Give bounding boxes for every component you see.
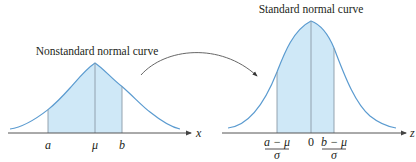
tick-b-numerator: b − μ — [321, 135, 347, 149]
normal-curve-diagram: Nonstandard normal curve x a μ b Standar… — [0, 0, 416, 162]
tick-a: a — [45, 138, 51, 152]
tick-a-standardized: a − μ σ — [264, 135, 290, 162]
right-panel: Standard normal curve z a − μ σ 0 b − μ … — [222, 3, 415, 162]
tick-b-denominator: σ — [331, 148, 338, 162]
tick-b: b — [119, 138, 125, 152]
tick-a-numerator: a − μ — [264, 135, 290, 149]
right-shaded-area — [277, 21, 334, 133]
tick-zero: 0 — [308, 135, 314, 149]
right-axis-label: z — [409, 126, 415, 140]
tick-a-denominator: σ — [274, 148, 281, 162]
left-shaded-area — [48, 63, 122, 133]
left-axis-label: x — [195, 126, 202, 140]
curved-arrow-icon — [141, 53, 257, 76]
right-title: Standard normal curve — [259, 3, 364, 15]
left-title: Nonstandard normal curve — [36, 45, 159, 57]
tick-mu: μ — [91, 138, 98, 152]
tick-b-standardized: b − μ σ — [321, 135, 347, 162]
left-panel: Nonstandard normal curve x a μ b — [8, 45, 202, 152]
